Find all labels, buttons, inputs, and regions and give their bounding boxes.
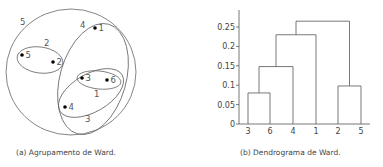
point-6-marker (105, 78, 109, 82)
y-tick-label: 0.2 (222, 42, 235, 51)
dendrogram-link (296, 21, 350, 86)
dendrogram-links (248, 21, 361, 124)
y-tick-label: 0.15 (217, 62, 235, 71)
ward-dendrogram-chart: 00.050.10.150.20.25 364125 (195, 0, 383, 140)
caption-a: (a) Agrupamento de Ward. (16, 148, 116, 157)
dendrogram-link (248, 93, 270, 124)
point-5-label: 5 (26, 50, 31, 60)
y-tick-label: 0.05 (217, 101, 235, 110)
point-2-marker (51, 60, 55, 64)
x-tick-label: 6 (267, 127, 272, 136)
point-1-marker (93, 26, 97, 30)
point-5-marker (20, 53, 24, 57)
cluster-label-1: 1 (94, 89, 99, 99)
y-tick-label: 0 (230, 120, 235, 129)
x-tick-label: 3 (245, 127, 250, 136)
cluster-labels: 5 2 4 1 3 (20, 17, 99, 124)
ward-clustering-diagram: 123456 5 2 4 1 3 (0, 0, 190, 140)
cluster-svg: 123456 5 2 4 1 3 (0, 0, 190, 140)
cluster-label-2: 2 (44, 38, 49, 48)
cluster-4-ellipse (46, 15, 141, 140)
cluster-label-4: 4 (80, 20, 85, 30)
point-3-marker (80, 76, 84, 80)
x-ticks: 364125 (245, 127, 363, 136)
x-tick-label: 5 (358, 127, 363, 136)
x-tick-label: 1 (313, 127, 318, 136)
x-tick-label: 4 (290, 127, 295, 136)
cluster-label-5: 5 (20, 17, 25, 27)
y-ticks: 00.050.10.150.20.25 (217, 23, 239, 129)
y-tick-label: 0.1 (222, 81, 235, 90)
point-6-label: 6 (111, 75, 116, 85)
dendrogram-link (338, 86, 361, 124)
y-tick-label: 0.25 (217, 23, 235, 32)
point-2-label: 2 (57, 57, 62, 67)
point-3-label: 3 (86, 73, 91, 83)
caption-b: (b) Dendrograma de Ward. (240, 148, 341, 157)
point-1-label: 1 (99, 23, 104, 33)
points-layer: 123456 (20, 23, 116, 112)
cluster-3-ellipse (50, 59, 131, 128)
point-4-label: 4 (69, 102, 74, 112)
dendrogram-link (259, 67, 293, 124)
dendrogram-link (276, 35, 316, 124)
cluster-label-3: 3 (85, 114, 90, 124)
point-4-marker (63, 105, 67, 109)
x-tick-label: 2 (335, 127, 340, 136)
dendrogram-svg: 00.050.10.150.20.25 364125 (195, 0, 383, 140)
